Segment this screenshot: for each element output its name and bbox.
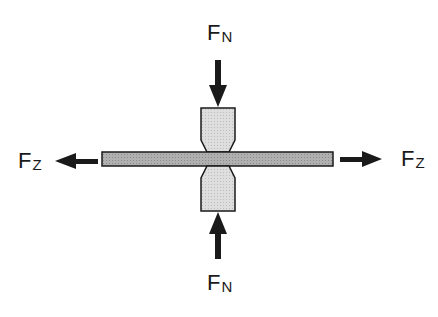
left-force-arrow: [55, 153, 98, 169]
top-force-label: FN: [207, 22, 232, 44]
sheet-bar: [102, 152, 333, 166]
bottom-electrode: [201, 166, 235, 211]
right-force-label: FZ: [401, 148, 425, 170]
top-electrode: [201, 108, 235, 152]
top-force-arrow: [209, 60, 227, 107]
bottom-force-arrow: [209, 212, 227, 259]
bottom-force-label: FN: [207, 272, 232, 294]
right-force-arrow: [340, 151, 382, 167]
left-force-label: FZ: [18, 150, 42, 172]
